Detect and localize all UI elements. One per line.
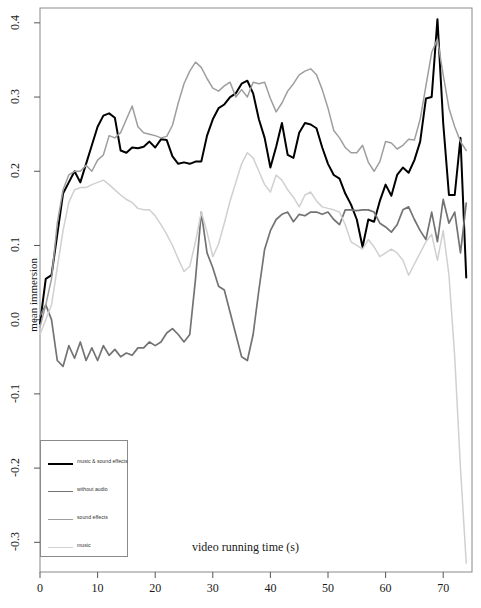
y-tick-label: -0.1 bbox=[8, 380, 23, 406]
legend-item: music & sound effects bbox=[41, 451, 129, 477]
y-axis-label: mean immersion bbox=[27, 258, 39, 332]
series-line-0 bbox=[40, 19, 466, 323]
y-tick-label: 0.4 bbox=[8, 9, 23, 35]
legend-label: music bbox=[77, 542, 91, 548]
y-tick-label: 0.2 bbox=[8, 158, 23, 184]
y-tick-label: -0.3 bbox=[8, 529, 23, 555]
y-tick-label: -0.2 bbox=[8, 455, 23, 481]
legend-label: sound effects bbox=[77, 514, 108, 520]
legend-item: music bbox=[41, 535, 129, 561]
x-tick-label: 50 bbox=[319, 581, 337, 596]
legend-item: sound effects bbox=[41, 507, 129, 533]
x-tick-label: 0 bbox=[31, 581, 49, 596]
x-tick-label: 60 bbox=[377, 581, 395, 596]
legend-label: without audio bbox=[77, 486, 108, 492]
legend-item: without audio bbox=[41, 479, 129, 505]
chart-figure: mean immersion video running time (s) 01… bbox=[0, 0, 481, 608]
legend: music & sound effectswithout audiosound … bbox=[40, 440, 128, 557]
x-tick-label: 70 bbox=[434, 581, 452, 596]
x-axis-label: video running time (s) bbox=[192, 540, 299, 555]
series-line-2 bbox=[40, 39, 466, 327]
legend-swatch-icon bbox=[48, 547, 73, 548]
legend-label: music & sound effects bbox=[77, 458, 128, 464]
y-tick-label: 0.1 bbox=[8, 232, 23, 258]
series-line-1 bbox=[40, 199, 466, 366]
y-tick-label: 0.3 bbox=[8, 84, 23, 110]
x-tick-label: 40 bbox=[261, 581, 279, 596]
x-tick-label: 30 bbox=[204, 581, 222, 596]
x-tick-label: 20 bbox=[146, 581, 164, 596]
legend-swatch-icon bbox=[48, 491, 73, 492]
legend-swatch-icon bbox=[48, 463, 73, 465]
y-tick-label: 0.0 bbox=[8, 306, 23, 332]
legend-swatch-icon bbox=[48, 519, 73, 520]
x-tick-label: 10 bbox=[89, 581, 107, 596]
